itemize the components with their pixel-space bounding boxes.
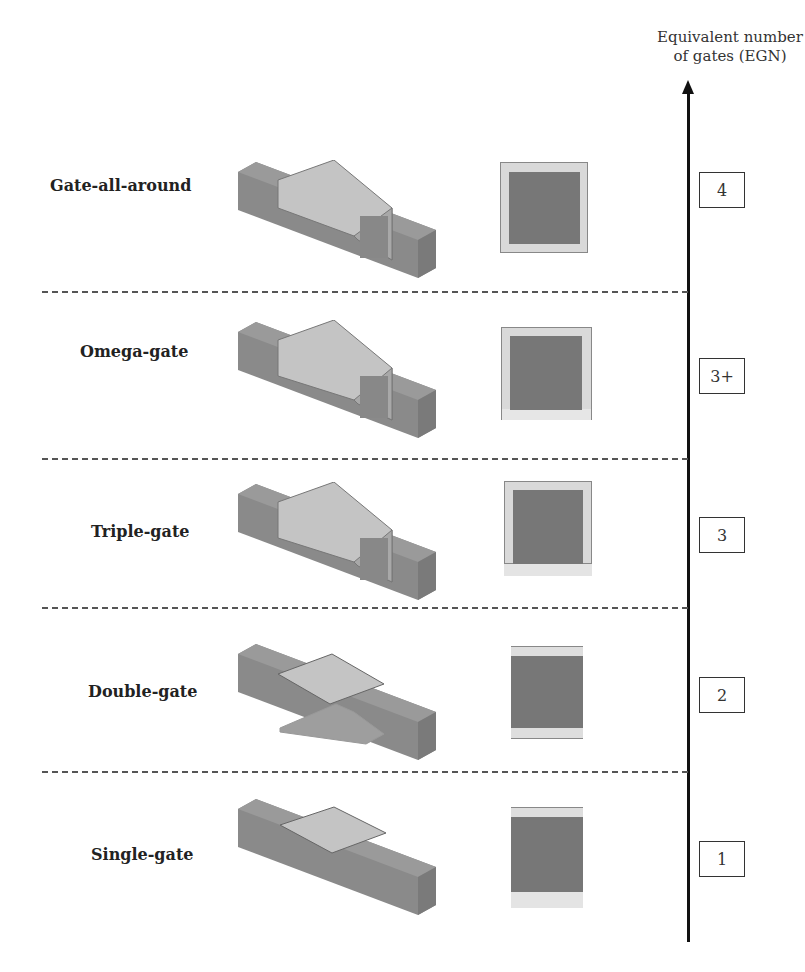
row-divider — [42, 771, 688, 773]
cross-section-omega-gate — [501, 327, 592, 420]
row-label-single-gate: Single-gate — [91, 845, 193, 864]
cross-section-triple-gate — [504, 481, 592, 576]
row-label-double-gate: Double-gate — [88, 682, 197, 701]
egn-badge-single-gate: 1 — [699, 841, 745, 877]
row-label-omega-gate: Omega-gate — [80, 342, 188, 361]
egn-badge-triple-gate: 3 — [699, 517, 745, 553]
egn-axis-line — [687, 90, 690, 942]
row-divider — [42, 291, 688, 293]
row-divider — [42, 607, 688, 609]
cross-section-single-gate — [511, 807, 583, 908]
egn-badge-omega-gate: 3+ — [699, 358, 745, 394]
device-3d-omega-gate — [236, 320, 446, 440]
row-label-triple-gate: Triple-gate — [91, 522, 189, 541]
egn-badge-gate-all-around: 4 — [699, 172, 745, 208]
device-3d-triple-gate — [236, 482, 446, 602]
cross-section-double-gate — [511, 646, 583, 739]
row-label-gate-all-around: Gate-all-around — [50, 176, 191, 195]
egn-axis-title-line2: of gates (EGN) — [650, 47, 805, 66]
row-divider — [42, 458, 688, 460]
device-3d-single-gate — [236, 797, 446, 917]
egn-badge-double-gate: 2 — [699, 677, 745, 713]
egn-axis-title-line1: Equivalent number — [650, 28, 805, 47]
egn-axis-title: Equivalent number of gates (EGN) — [650, 28, 805, 66]
device-3d-gate-all-around — [236, 160, 446, 280]
cross-section-gate-all-around — [500, 162, 588, 253]
device-3d-double-gate — [236, 642, 446, 762]
